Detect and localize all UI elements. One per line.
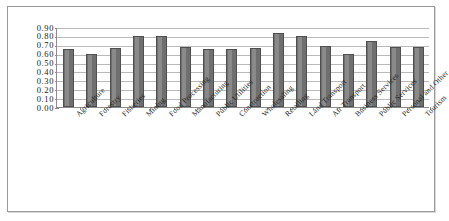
x-tick-label: Tourism bbox=[423, 112, 429, 118]
x-tick-label: Mining bbox=[144, 112, 150, 118]
x-tick-label: Wholesaling bbox=[260, 112, 266, 118]
x-axis: AgricultureForestryFisheriesMiningFood P… bbox=[56, 108, 429, 208]
bar bbox=[63, 49, 74, 107]
x-tick-label: Public Services bbox=[377, 112, 383, 118]
chart-figure-frame: 0.900.800.700.600.500.400.300.200.100.00… bbox=[7, 6, 435, 212]
x-tick-label: Construction bbox=[237, 112, 243, 118]
x-tick-label: Business Services bbox=[353, 112, 359, 118]
screenshot-root: 0.900.800.700.600.500.400.300.200.100.00… bbox=[0, 0, 449, 221]
x-tick-label: Forestry bbox=[97, 112, 103, 118]
x-tick-label: Food Processing bbox=[167, 112, 173, 118]
x-tick-label: Agriculture bbox=[74, 112, 80, 118]
x-tick-label: Personal and Other ... bbox=[400, 112, 406, 118]
x-tick-label: Public Utilities bbox=[214, 112, 220, 118]
y-tick-label: 0.00 bbox=[16, 104, 54, 113]
x-tick-label: Air Transport bbox=[330, 112, 336, 118]
x-tick-label: Fisheries bbox=[120, 112, 126, 118]
y-axis: 0.900.800.700.600.500.400.300.200.100.00 bbox=[16, 21, 54, 115]
x-tick-label: Retailing bbox=[283, 112, 289, 118]
x-tick-label: Land Transport bbox=[307, 112, 313, 118]
x-tick-label: Manufacturing bbox=[190, 112, 196, 118]
